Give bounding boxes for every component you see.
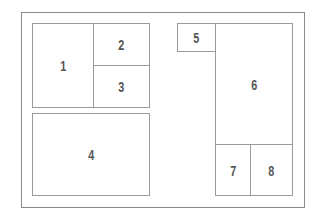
cell-5: 5 [177,23,216,52]
cell-8-label: 8 [268,162,274,179]
cell-3: 3 [93,65,150,108]
cell-4: 4 [32,113,150,196]
cell-1-label: 1 [60,57,66,74]
cell-4-label: 4 [88,146,94,163]
cell-6: 6 [215,23,293,145]
cell-8: 8 [250,144,293,196]
cell-6-label: 6 [251,76,257,93]
cell-2-label: 2 [118,36,124,53]
cell-3-label: 3 [118,78,124,95]
cell-2: 2 [93,23,150,66]
cell-1: 1 [32,23,94,108]
cell-5-label: 5 [193,29,199,46]
cell-7: 7 [215,144,251,196]
cell-7-label: 7 [230,162,236,179]
